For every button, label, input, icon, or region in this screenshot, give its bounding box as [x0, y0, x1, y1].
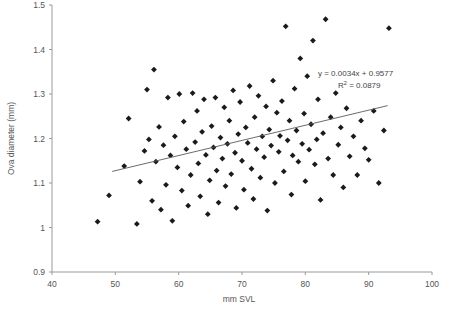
data-point	[106, 193, 112, 199]
data-point	[169, 218, 175, 224]
data-point	[274, 110, 280, 116]
data-point	[214, 168, 220, 174]
data-point	[172, 133, 178, 139]
data-point	[251, 196, 257, 202]
data-point	[281, 169, 287, 175]
data-point	[230, 88, 236, 94]
data-point	[335, 142, 341, 148]
data-point	[325, 156, 331, 162]
data-point	[285, 137, 291, 143]
data-point	[144, 87, 150, 93]
data-point	[270, 78, 276, 84]
x-axis-title: mm SVL	[223, 294, 256, 304]
data-point	[137, 179, 143, 185]
data-point	[257, 175, 263, 181]
data-point	[142, 148, 148, 154]
data-point	[340, 185, 346, 191]
data-point	[320, 130, 326, 136]
x-axis-group: 405060708090100 mm SVL	[47, 272, 439, 304]
data-point	[235, 131, 241, 137]
data-point	[292, 86, 298, 92]
data-point	[233, 205, 239, 211]
data-point	[290, 153, 296, 159]
data-point	[338, 124, 344, 130]
data-point	[381, 128, 387, 134]
data-point	[306, 147, 312, 153]
data-point	[209, 123, 215, 129]
x-tick-label: 90	[364, 279, 374, 289]
y-tick-label: 1.3	[33, 89, 45, 99]
data-point	[301, 111, 307, 117]
data-point	[287, 118, 293, 124]
data-point	[192, 139, 198, 145]
data-point	[95, 219, 101, 225]
data-point	[315, 96, 321, 102]
y-tick-group: 0.911.11.21.31.41.5	[33, 0, 52, 277]
data-point	[188, 172, 194, 178]
data-point	[314, 136, 320, 142]
data-point	[299, 141, 305, 147]
data-point	[347, 153, 353, 159]
data-point	[146, 136, 152, 142]
y-tick-label: 1.5	[33, 0, 45, 10]
x-tick-label: 60	[174, 279, 184, 289]
data-point	[228, 171, 234, 177]
data-point	[183, 146, 189, 152]
data-point	[354, 172, 360, 178]
data-point	[156, 124, 162, 130]
data-point	[216, 200, 222, 206]
data-point	[223, 183, 229, 189]
data-point	[176, 91, 182, 97]
data-point	[213, 95, 219, 101]
data-point	[266, 127, 272, 133]
data-point	[366, 157, 372, 163]
data-point	[207, 177, 213, 183]
data-point	[294, 128, 300, 134]
data-point	[237, 99, 243, 105]
data-point	[289, 192, 295, 198]
data-point	[219, 156, 225, 162]
data-point	[252, 114, 258, 120]
data-point	[232, 150, 238, 156]
data-point	[254, 146, 260, 152]
x-tick-label: 100	[425, 279, 439, 289]
data-point	[218, 135, 224, 141]
x-tick-label: 40	[47, 279, 57, 289]
data-point	[245, 140, 251, 146]
regression-equation-label: y = 0.0034x + 0.9577	[318, 69, 394, 78]
data-point	[249, 166, 255, 172]
data-point	[362, 145, 368, 151]
data-point	[190, 90, 196, 96]
data-point-group	[95, 16, 392, 227]
data-point	[256, 93, 262, 99]
data-point	[163, 182, 169, 188]
data-point	[201, 96, 207, 102]
data-point	[351, 133, 357, 139]
data-point	[199, 129, 205, 135]
data-point	[203, 152, 209, 158]
data-point	[279, 98, 285, 104]
data-point	[185, 203, 191, 209]
r-squared-label: R2 = 0.0879	[338, 80, 381, 90]
chart-canvas: 0.911.11.21.31.41.5 Ova diameter (mm) 40…	[0, 0, 450, 310]
y-axis-group: 0.911.11.21.31.41.5 Ova diameter (mm)	[6, 0, 52, 277]
y-axis-title: Ova diameter (mm)	[6, 102, 16, 175]
x-tick-label: 70	[237, 279, 247, 289]
data-point	[268, 143, 274, 149]
data-point	[247, 83, 253, 89]
data-point	[295, 159, 301, 165]
data-point	[175, 165, 181, 171]
data-point	[302, 178, 308, 184]
scatter-chart: 0.911.11.21.31.41.5 Ova diameter (mm) 40…	[0, 0, 450, 310]
data-point	[126, 116, 132, 122]
data-point	[272, 180, 278, 186]
data-point	[386, 25, 392, 31]
data-point	[310, 38, 316, 44]
data-point	[376, 180, 382, 186]
data-point	[179, 188, 185, 194]
data-point	[276, 149, 282, 155]
data-point	[241, 187, 247, 193]
data-point	[297, 56, 303, 62]
data-point	[264, 208, 270, 214]
x-tick-label: 50	[111, 279, 121, 289]
